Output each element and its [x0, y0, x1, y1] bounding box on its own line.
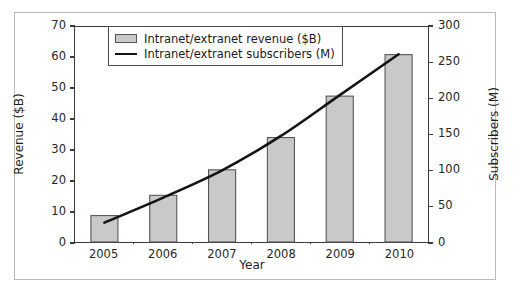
- x-tick-2009: 2009: [316, 249, 364, 261]
- bar-swatch-icon: [115, 34, 137, 43]
- y-tick-right-100: 100: [438, 164, 460, 176]
- y-tick-right-0: 0: [438, 237, 445, 249]
- x-tick-2006: 2006: [139, 249, 187, 261]
- chart-legend: Intranet/extranet revenue ($B) Intranet/…: [108, 26, 343, 66]
- x-tick-2007: 2007: [198, 249, 246, 261]
- y-axis-left-title: Revenue ($B): [12, 93, 26, 174]
- legend-label-revenue: Intranet/extranet revenue ($B): [144, 32, 321, 46]
- subscribers-line: [104, 54, 398, 222]
- bar-2009: [326, 96, 353, 242]
- y-tick-left-10: 10: [51, 206, 66, 218]
- bar-2008: [267, 138, 294, 242]
- x-tick-2005: 2005: [80, 249, 128, 261]
- y-tick-right-300: 300: [438, 20, 460, 32]
- y-tick-right-150: 150: [438, 128, 460, 140]
- y-tick-right-250: 250: [438, 56, 460, 68]
- y-tick-left-30: 30: [51, 144, 66, 156]
- y-tick-right-50: 50: [438, 200, 453, 212]
- legend-item-subscribers: Intranet/extranet subscribers (M): [115, 46, 335, 61]
- bar-2010: [385, 55, 412, 242]
- legend-item-revenue: Intranet/extranet revenue ($B): [115, 31, 335, 46]
- y-tick-left-0: 0: [59, 237, 66, 249]
- y-tick-left-70: 70: [51, 20, 66, 32]
- y-tick-left-20: 20: [51, 175, 66, 187]
- bar-2007: [209, 170, 236, 242]
- x-tick-2008: 2008: [257, 249, 305, 261]
- chart-figure: Revenue ($B) Subscribers (M) Year 010203…: [0, 0, 520, 300]
- legend-label-subscribers: Intranet/extranet subscribers (M): [144, 47, 335, 61]
- line-swatch-icon: [115, 53, 137, 55]
- y-tick-left-40: 40: [51, 113, 66, 125]
- y-tick-right-200: 200: [438, 92, 460, 104]
- y-tick-left-50: 50: [51, 82, 66, 94]
- y-tick-left-60: 60: [51, 51, 66, 63]
- x-tick-2010: 2010: [375, 249, 423, 261]
- y-axis-right-title: Subscribers (M): [487, 87, 501, 181]
